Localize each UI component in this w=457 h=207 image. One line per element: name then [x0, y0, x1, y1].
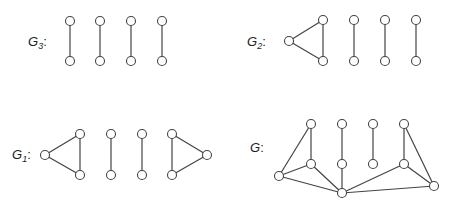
- graph-vertex: [381, 57, 390, 66]
- graph-edge: [172, 134, 207, 155]
- graph-vertex: [76, 130, 85, 139]
- graph-vertex: [127, 17, 136, 26]
- graph-vertex: [41, 151, 50, 160]
- graph-vertex: [285, 37, 294, 46]
- graph-vertex: [168, 171, 177, 180]
- graph-label: G2:: [247, 34, 266, 51]
- graph-vertex: [127, 57, 136, 66]
- graph-vertex: [338, 189, 347, 198]
- graph-g1: G1:: [12, 130, 212, 180]
- graph-vertex: [412, 57, 421, 66]
- graph-vertex: [319, 57, 328, 66]
- graph-vertex: [381, 16, 390, 25]
- graph-vertex: [107, 130, 116, 139]
- graph-vertex: [138, 171, 147, 180]
- graph-g3: G3:: [28, 17, 167, 66]
- graph-vertex: [168, 130, 177, 139]
- graph-vertex: [275, 172, 284, 181]
- graph-edge: [404, 124, 434, 186]
- graph-vertex: [369, 120, 378, 129]
- graph-vertex: [158, 17, 167, 26]
- graph-edge: [45, 134, 80, 155]
- graph-vertex: [430, 182, 439, 191]
- graph-label: G3:: [28, 34, 47, 51]
- graph-label: G:: [250, 140, 264, 155]
- graph-vertex: [107, 171, 116, 180]
- graph-vertex: [338, 160, 347, 169]
- graph-vertex: [203, 151, 212, 160]
- graph-vertex: [307, 160, 316, 169]
- graph-vertex: [138, 130, 147, 139]
- graph-edge: [404, 164, 434, 186]
- graph-edge: [45, 155, 80, 175]
- graph-vertex: [412, 16, 421, 25]
- graph-vertex: [338, 120, 347, 129]
- graph-vertex: [158, 57, 167, 66]
- graph-vertex: [66, 17, 75, 26]
- graph-edge: [172, 155, 207, 175]
- graph-vertex: [66, 57, 75, 66]
- graph-edge: [289, 41, 323, 61]
- graph-vertex: [76, 171, 85, 180]
- graph-edge: [279, 164, 311, 176]
- graph-decomposition-diagram: G3:G2:G1:G:: [0, 0, 457, 207]
- graph-vertex: [400, 160, 409, 169]
- graph-vertex: [400, 120, 409, 129]
- graph-vertex: [96, 57, 105, 66]
- graph-vertex: [319, 16, 328, 25]
- graph-g: G:: [250, 120, 439, 198]
- graph-edge: [279, 124, 311, 176]
- graph-label: G1:: [12, 147, 31, 164]
- graph-g2: G2:: [247, 16, 421, 66]
- graph-vertex: [350, 57, 359, 66]
- graph-vertex: [369, 160, 378, 169]
- graph-vertex: [307, 120, 316, 129]
- graph-vertex: [350, 16, 359, 25]
- graph-edge: [289, 20, 323, 41]
- graph-vertex: [96, 17, 105, 26]
